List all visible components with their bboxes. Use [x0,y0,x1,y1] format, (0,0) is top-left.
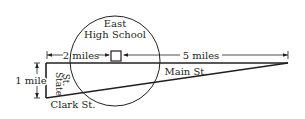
dist-left-label: 2 miles [63,50,99,61]
school-label-line2: High School [84,29,146,40]
arrow-right-icon [105,53,110,57]
school-marker [111,51,121,61]
state-st-label-line2: St. [61,74,71,87]
map-diagram: East High School 2 miles 5 miles 1 mile … [0,0,305,119]
diagram-canvas: East High School 2 miles 5 miles 1 mile … [0,0,305,119]
clark-st-label: Clark St. [51,99,96,110]
height-label: 1 mile [15,75,46,86]
dist-right-label: 5 miles [183,50,219,61]
arrow-down-icon [35,93,39,98]
school-label-line1: East [104,18,126,29]
arrow-left-icon [47,53,52,57]
arrow-up-icon [35,63,39,68]
arrow-right-icon [283,53,288,57]
main-st-label: Main St. [164,66,207,77]
arrow-left-icon [123,53,128,57]
